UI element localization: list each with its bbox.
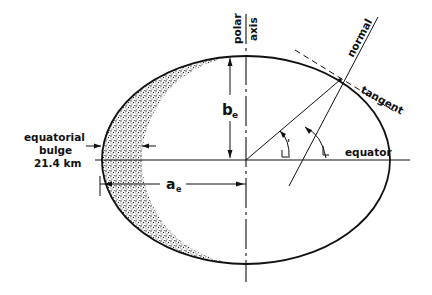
equatorial-bulge-label-line2: bulge: [39, 144, 72, 156]
surface-point: [338, 78, 342, 82]
equatorial-bulge-label-line1: equatorial: [24, 131, 85, 143]
semi-major-label: a: [166, 176, 175, 192]
semi-minor-subscript: e: [232, 110, 238, 120]
equator-label: equator: [345, 146, 392, 158]
earth-ellipse-diagram: b e a e ' polar axis normal tangent equa…: [0, 0, 432, 295]
equatorial-bulge-value: 21.4 km: [34, 157, 82, 169]
geocentric-radius-line: [246, 80, 340, 160]
tangent-label: tangent: [359, 83, 406, 116]
polar-axis-label-line2: axis: [247, 17, 259, 41]
polar-axis-label-line1: polar: [231, 13, 243, 44]
geocentric-angle-mark: ': [287, 138, 290, 149]
semi-major-subscript: e: [176, 185, 182, 194]
